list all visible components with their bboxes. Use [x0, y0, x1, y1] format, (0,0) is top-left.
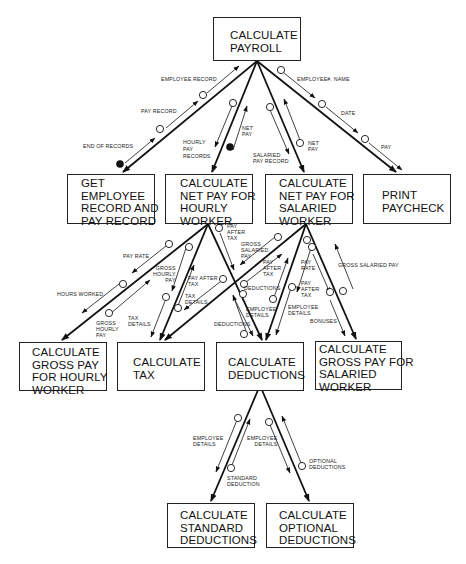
module-gross-pay-hourly: CALCULATE GROSS PAY FOR HOURLY WORKER [19, 342, 107, 391]
couple-employee-record: EMPLOYEE RECORD [161, 76, 217, 82]
module-label: PRINT PAYCHECK [382, 189, 444, 214]
couple-pay-record: PAY RECORD [141, 108, 177, 114]
couple-date: DATE [341, 110, 355, 116]
module-gross-pay-salaried: CALCULATE GROSS PAY FOR SALARIED WORKER [315, 341, 402, 390]
couple-employee-details-hourly: EMPLOYEE DETAILS [246, 306, 276, 318]
module-label: CALCULATE DEDUCTIONS [228, 356, 305, 381]
module-calculate-tax: CALCULATE TAX [117, 342, 205, 391]
module-get-employee-record: GET EMPLOYEE RECORD AND PAY RECORD [67, 174, 155, 224]
couple-end-of-records: END OF RECORDS [83, 143, 133, 149]
couple-employee-number-name: EMPLOYEE#, NAME [297, 76, 350, 82]
couple-pay-rate-salaried: PAY RATE [301, 259, 315, 271]
module-standard-deductions: CALCULATE STANDARD DEDUCTIONS [167, 503, 255, 548]
couple-net-pay-hourly: NET PAY [242, 125, 253, 137]
module-label: CALCULATE NET PAY FOR HOURLY WORKER [180, 177, 256, 227]
module-optional-deductions: CALCULATE OPTIONAL DEDUCTIONS [266, 503, 354, 548]
module-net-pay-salaried: CALCULATE NET PAY FOR SALARIED WORKER [265, 174, 353, 224]
couple-employee-details-salaried: EMPLOYEE DETAILS [288, 304, 318, 316]
module-net-pay-hourly: CALCULATE NET PAY FOR HOURLY WORKER [165, 174, 253, 224]
module-calculate-deductions: CALCULATE DEDUCTIONS [216, 342, 304, 391]
couple-pay-after-tax-s2: PAY AFTER TAX [301, 280, 319, 298]
couple-pay-rate-hourly: PAY RATE [123, 253, 149, 259]
couple-standard-deduction: STANDARD DEDUCTION [227, 475, 260, 487]
couple-tax-details-hourly: TAX DETAILS [128, 315, 151, 327]
module-label: CALCULATE STANDARD DEDUCTIONS [180, 509, 257, 546]
couple-gross-salaried-pay-tax: GROSS SALARIED PAY [241, 241, 268, 259]
module-calculate-payroll: CALCULATE PAYROLL [213, 17, 301, 61]
couple-employee-details-optional: EMPLOYEE DETAILS [247, 435, 277, 447]
couple-gross-hourly-pay-up: GROSS HOURLY PAY [153, 265, 176, 283]
module-label: CALCULATE GROSS PAY FOR SALARIED WORKER [319, 343, 414, 393]
couple-employee-details-standard: EMPLOYEE DETAILS [193, 435, 223, 447]
module-label: GET EMPLOYEE RECORD AND PAY RECORD [81, 177, 159, 227]
couple-net-pay-salaried: NET PAY [308, 140, 319, 152]
couple-deductions-salaried: DEDUCTIONS [244, 285, 281, 291]
module-label: CALCULATE GROSS PAY FOR HOURLY WORKER [32, 346, 108, 396]
module-label: CALCULATE NET PAY FOR SALARIED WORKER [279, 177, 355, 227]
couple-optional-deductions: OPTIONAL DEDUCTIONS [309, 458, 346, 470]
couple-bonuses: BONUSES [310, 318, 337, 324]
couple-tax-details-salaried: TAX DETAILS [185, 293, 208, 305]
couple-pay-after-tax-h2: PAY AFTER TAX [227, 223, 245, 241]
couple-hours-worked: HOURS WORKED [57, 291, 103, 297]
structure-chart: CALCULATE PAYROLL GET EMPLOYEE RECORD AN… [0, 0, 466, 564]
couple-pay: PAY [381, 144, 391, 150]
module-print-paycheck: PRINT PAYCHECK [363, 174, 451, 224]
module-label: CALCULATE PAYROLL [230, 29, 298, 54]
couple-hourly-pay-records: HOURLY PAY RECORDS [183, 139, 211, 160]
couple-gross-salaried-pay: GROSS SALARIED PAY [338, 262, 399, 268]
couple-pay-after-tax-s1: PAY AFTER TAX [263, 259, 281, 277]
couple-gross-hourly-pay-down: GROSS HOURLY PAY [96, 320, 119, 338]
couple-pay-after-tax-h1: PAY AFTER TAX [188, 275, 218, 287]
couple-salaried-pay-record: SALARIED PAY RECORD [253, 152, 289, 164]
module-label: CALCULATE OPTIONAL DEDUCTIONS [279, 509, 356, 546]
couple-deductions-hourly: DEDUCTIONS [214, 321, 251, 327]
module-label: CALCULATE TAX [133, 356, 201, 381]
